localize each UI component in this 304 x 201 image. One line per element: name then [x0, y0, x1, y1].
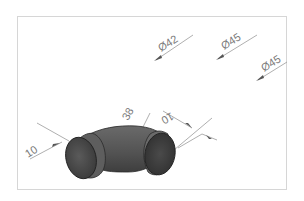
dimension-center: 38 — [119, 105, 150, 127]
dim-label-center: 38 — [119, 105, 136, 122]
arrow-icon — [256, 75, 264, 81]
elbow-body — [61, 126, 178, 182]
dim-label-socket-left: 10 — [23, 143, 40, 160]
elbow-drawing: Ø42 Ø45 Ø45 10 38 10 — [0, 0, 304, 201]
arrow-icon — [154, 55, 162, 61]
dim-label-dia-3: Ø45 — [259, 52, 283, 73]
dim-label-dia-2: Ø45 — [219, 30, 243, 51]
dimension-dia-2: Ø45 — [216, 30, 257, 60]
dimension-dia-3: Ø45 — [256, 52, 287, 81]
dimension-socket-left: 10 — [23, 123, 69, 160]
dim-label-socket-right: 10 — [159, 110, 176, 127]
arrow-icon — [216, 54, 224, 60]
dim-label-dia-1: Ø42 — [156, 32, 180, 53]
arrow-icon — [206, 135, 212, 139]
dimension-dia-1: Ø42 — [154, 32, 193, 61]
